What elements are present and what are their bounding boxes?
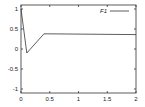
y-tick-label: -0.5 bbox=[8, 66, 19, 72]
x-tick-label: 0 bbox=[19, 96, 23, 102]
x-tick-label: 0.5 bbox=[46, 96, 55, 102]
x-tick-label: 1 bbox=[77, 96, 81, 102]
plot-frame bbox=[21, 5, 136, 93]
legend-label-f1: F1 bbox=[100, 8, 107, 14]
x-tick-label: 2 bbox=[134, 96, 138, 102]
y-tick-label: 1 bbox=[15, 6, 19, 12]
y-axis-ticks: 10.50-0.5-1 bbox=[8, 6, 136, 92]
y-tick-label: -1 bbox=[13, 86, 19, 92]
y-tick-label: 0 bbox=[15, 46, 19, 52]
x-tick-label: 1.5 bbox=[103, 96, 112, 102]
y-tick-label: 0.5 bbox=[10, 26, 19, 32]
x-axis-ticks: 00.511.52 bbox=[19, 5, 138, 102]
legend: F1 bbox=[100, 8, 129, 14]
line-chart: 10.50-0.5-1 00.511.52 F1 bbox=[0, 0, 145, 107]
series-f1-line bbox=[21, 9, 136, 53]
